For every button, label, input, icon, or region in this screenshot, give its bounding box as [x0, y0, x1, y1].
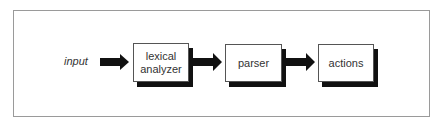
lexical-analyzer-box: lexical analyzer	[133, 43, 189, 82]
arrow-input-to-lexer	[100, 54, 129, 70]
arrow-parser-to-actions	[286, 53, 315, 71]
arrow-lexer-to-parser	[192, 53, 222, 71]
actions-label: actions	[329, 57, 364, 70]
lexical-analyzer-label-line1: lexical	[140, 50, 182, 63]
lexical-analyzer-label-line2: analyzer	[140, 63, 182, 76]
parser-box: parser	[225, 44, 282, 82]
input-label: input	[64, 55, 88, 67]
actions-box: actions	[318, 44, 374, 82]
parser-label: parser	[238, 57, 269, 70]
